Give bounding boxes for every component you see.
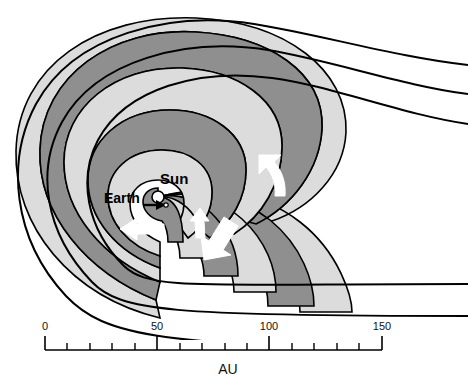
sun-label: Sun <box>160 170 188 187</box>
earth-marker <box>164 203 168 207</box>
earth-label: Earth <box>104 190 140 206</box>
axis-tick-label-0: 0 <box>42 320 48 332</box>
spiral-bands-group <box>16 18 468 348</box>
diagram-canvas <box>0 0 468 383</box>
axis-tick-label-50: 50 <box>151 320 163 332</box>
heliosphere-diagram: Sun Earth 0 50 100 150 AU <box>0 0 468 383</box>
axis-title: AU <box>218 361 237 377</box>
axis-scale-bar <box>45 336 382 350</box>
axis-tick-label-100: 100 <box>260 320 278 332</box>
axis-tick-label-150: 150 <box>373 320 391 332</box>
